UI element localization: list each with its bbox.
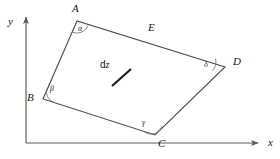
- angle-label-beta: β: [50, 85, 54, 93]
- vertex-label-a: A: [72, 3, 79, 14]
- edge-label-e: E: [148, 22, 155, 33]
- dz-label: dz: [100, 60, 109, 70]
- angle-label-gamma: γ: [142, 119, 145, 127]
- y-axis-label: y: [8, 16, 13, 27]
- geometry-figure: y x A B C D E α β γ δ dz: [0, 0, 280, 159]
- vertex-label-d: D: [233, 56, 241, 67]
- figure-canvas: [0, 0, 280, 159]
- angle-label-delta: δ: [204, 61, 208, 69]
- x-axis-label: x: [268, 137, 273, 148]
- dz-tick-mark: [112, 69, 131, 86]
- angle-label-alpha: α: [78, 25, 82, 33]
- dz-label-z: z: [106, 59, 110, 70]
- vertex-label-b: B: [27, 92, 34, 103]
- quadrilateral-outline: [43, 21, 225, 135]
- angle-arc-gamma: [144, 126, 162, 134]
- vertex-label-c: C: [158, 138, 165, 149]
- angle-arc-delta: [212, 59, 215, 71]
